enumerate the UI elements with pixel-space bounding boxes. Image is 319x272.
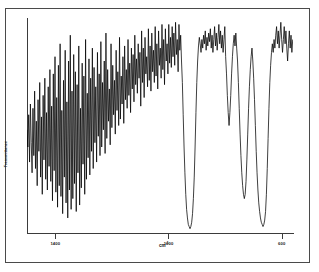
x-tick-mark <box>168 234 169 239</box>
x-axis-title-exponent: -1 <box>166 241 169 245</box>
x-tick-label: 600 <box>278 241 285 246</box>
x-tick-mark <box>282 234 283 239</box>
spectrum-trace-svg <box>27 18 293 233</box>
y-axis-title: Transmittance <box>4 132 8 176</box>
x-axis-title: cm-1 <box>159 241 169 248</box>
spectrum-trace <box>27 22 293 228</box>
x-axis-title-main: cm <box>159 243 166 248</box>
ir-spectrum-figure: 14001000600 cm-1 Transmittance <box>0 0 319 272</box>
x-axis-line <box>27 233 294 234</box>
x-tick-mark <box>55 234 56 239</box>
x-tick-label: 1400 <box>50 241 60 246</box>
plot-area <box>27 18 293 233</box>
